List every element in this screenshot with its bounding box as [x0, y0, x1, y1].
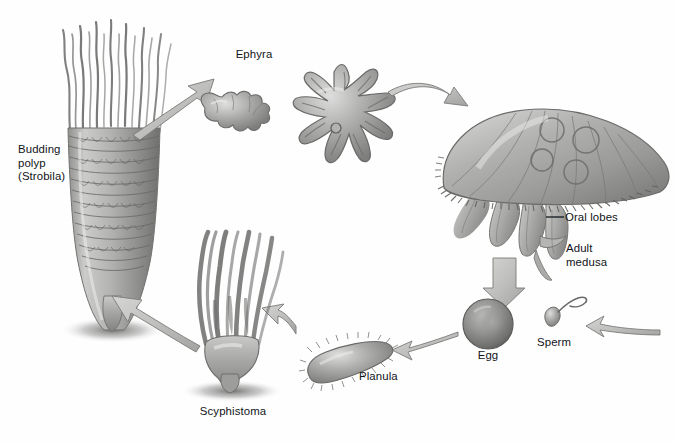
- stage-egg: [463, 299, 513, 349]
- arrow-polyp-to-ephyra: [133, 79, 214, 140]
- budding-polyp-tentacles: [63, 20, 171, 132]
- stage-sperm: [545, 297, 587, 326]
- stage-scyphistoma: [180, 232, 284, 402]
- stage-ephyra-large: [293, 65, 395, 163]
- figure-canvas: Budding polyp (Strobila) Ephyra Oral lob…: [0, 0, 676, 443]
- label-oral-lobes: Oral lobes: [565, 211, 618, 225]
- scyphistoma-tentacles: [199, 232, 283, 344]
- label-ephyra: Ephyra: [224, 48, 284, 62]
- stage-ephyra-small: [201, 91, 269, 131]
- egg-nucleus: [479, 309, 505, 335]
- label-budding-polyp: Budding polyp (Strobila): [18, 143, 84, 184]
- label-sperm: Sperm: [537, 336, 571, 350]
- arrow-egg-to-planula: [392, 332, 458, 360]
- arrow-ephyra-to-medusa: [388, 83, 468, 106]
- label-planula: Planula: [359, 370, 398, 384]
- stage-adult-medusa: [435, 109, 669, 280]
- label-scyphistoma: Scyphistoma: [178, 405, 288, 419]
- ephyra-manubrium: [331, 123, 341, 133]
- label-adult-medusa: Adult medusa: [566, 242, 607, 269]
- arrow-sperm-to-egg: [586, 316, 660, 337]
- label-egg: Egg: [464, 349, 512, 363]
